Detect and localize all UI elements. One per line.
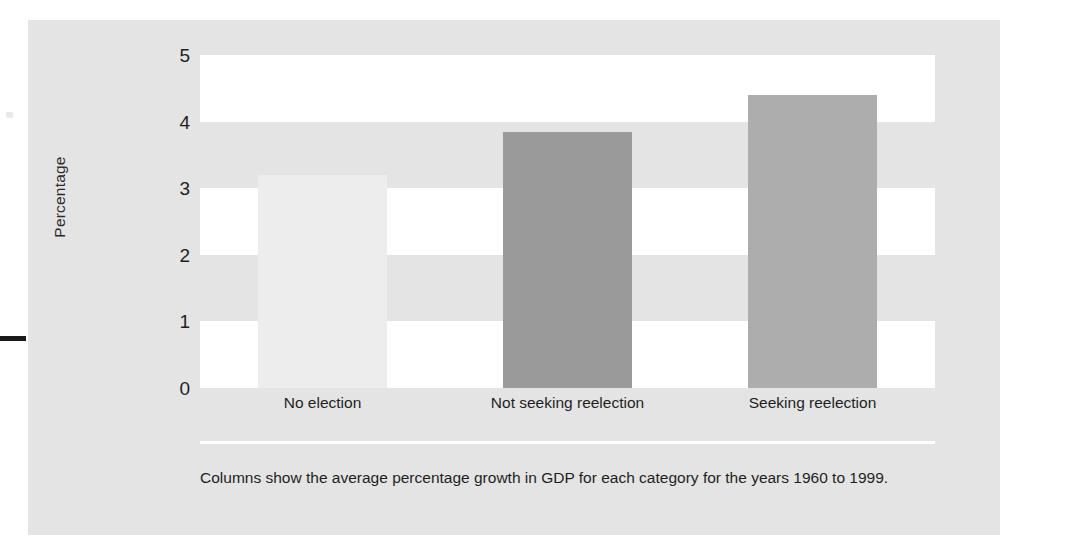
axis-separator-rule <box>200 441 935 444</box>
bar-no-election[interactable] <box>258 175 387 388</box>
figure-caption: Columns show the average percentage grow… <box>200 467 940 489</box>
y-axis-tick-5: 5 <box>179 46 190 65</box>
x-axis-tick-no-election: No election <box>284 394 362 412</box>
x-axis-tick-seeking-reelection: Seeking reelection <box>749 394 877 412</box>
x-axis-tick-labels: No electionNot seeking reelectionSeeking… <box>200 394 935 424</box>
y-axis-tick-1: 1 <box>179 312 190 331</box>
y-axis-tick-3: 3 <box>179 179 190 198</box>
y-axis-tick-0: 0 <box>179 379 190 398</box>
page-margin-rule-artifact <box>0 336 26 341</box>
bar-seeking-reelection[interactable] <box>748 95 877 388</box>
bar-chart: Percentage 012345 No electionNot seeking… <box>28 20 1000 430</box>
y-axis-tick-2: 2 <box>179 245 190 264</box>
figure-panel: Percentage 012345 No electionNot seeking… <box>28 20 1000 535</box>
plot-area <box>200 55 935 388</box>
y-axis-tick-4: 4 <box>179 112 190 131</box>
page-margin-tick-artifact <box>6 112 13 118</box>
x-axis-tick-not-seeking-reelection: Not seeking reelection <box>491 394 644 412</box>
y-axis-tick-labels: 012345 <box>156 55 190 388</box>
y-axis-title: Percentage <box>51 117 69 277</box>
bar-not-seeking-reelection[interactable] <box>503 132 632 388</box>
